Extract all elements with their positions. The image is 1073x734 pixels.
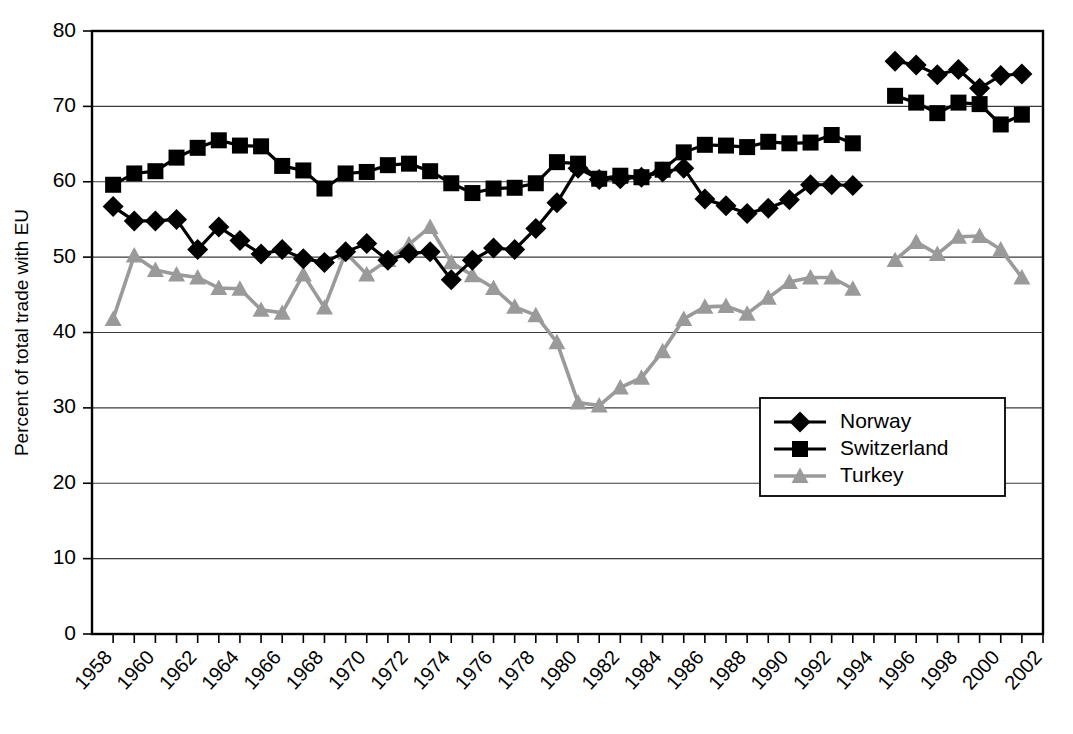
marker-switzerland-1965 [253,138,269,154]
marker-switzerland-1986 [697,137,713,153]
x-tick-label-1962: 1962 [155,646,201,694]
x-tick-label-1994: 1994 [831,646,877,694]
y-tick-label-60: 60 [53,168,76,191]
y-tick-label-30: 30 [53,394,76,417]
legend-label-turkey: Turkey [840,463,904,486]
series-turkey [105,218,1031,412]
x-tick-label-1960: 1960 [112,646,158,694]
chart-container: 01020304050607080 1958196019621964196619… [0,0,1073,734]
marker-norway-1958 [103,196,124,217]
marker-switzerland-1996 [908,95,924,111]
marker-switzerland-1982 [612,168,628,184]
marker-turkey-1959 [126,247,143,262]
legend-swatch-marker-switzerland [792,441,808,457]
marker-switzerland-1990 [781,135,797,151]
marker-turkey-2000 [992,241,1009,256]
x-tick-label-1984: 1984 [619,646,665,694]
x-tick-label-1970: 1970 [324,646,370,694]
marker-switzerland-1997 [929,105,945,121]
marker-turkey-1985 [675,310,692,325]
y-tick-label-50: 50 [53,244,76,267]
marker-switzerland-1984 [655,162,671,178]
marker-switzerland-1992 [824,127,840,143]
marker-norway-1993 [842,175,863,196]
x-tick-label-1958: 1958 [70,646,116,694]
marker-switzerland-1977 [507,180,523,196]
marker-turkey-1974 [443,254,460,269]
y-tick-label-40: 40 [53,319,76,342]
marker-switzerland-1999 [972,96,988,112]
x-tick-label-2000: 2000 [958,646,1004,694]
y-axis-title-text: Percent of total trade with EU [11,209,32,456]
x-tick-label-1980: 1980 [535,646,581,694]
marker-switzerland-2000 [993,116,1009,132]
marker-norway-2001 [1011,63,1032,84]
marker-switzerland-1964 [232,138,248,154]
marker-switzerland-1970 [359,164,375,180]
marker-norway-1968 [314,252,335,273]
marker-switzerland-1998 [950,95,966,111]
marker-switzerland-1988 [739,139,755,155]
marker-turkey-1993 [844,280,861,295]
y-tick-label-10: 10 [53,545,76,568]
marker-switzerland-1971 [380,157,396,173]
marker-norway-1965 [251,244,272,265]
marker-switzerland-1978 [528,175,544,191]
marker-turkey-1958 [105,310,122,325]
marker-norway-1964 [229,230,250,251]
marker-switzerland-1973 [422,163,438,179]
y-axis-title: Percent of total trade with EU [11,209,32,456]
marker-switzerland-1959 [126,165,142,181]
marker-switzerland-1976 [486,181,502,197]
marker-turkey-1973 [422,218,439,233]
marker-switzerland-1967 [295,162,311,178]
series-norway [103,51,1033,291]
marker-switzerland-1989 [760,134,776,150]
marker-norway-1960 [145,210,166,231]
x-tick-label-1976: 1976 [450,646,496,694]
marker-norway-1992 [821,174,842,195]
marker-switzerland-1993 [845,135,861,151]
y-tick-label-80: 80 [53,18,76,41]
marker-switzerland-1991 [803,135,819,151]
y-axis-ticks: 01020304050607080 [53,18,92,644]
marker-switzerland-1974 [443,175,459,191]
marker-norway-1967 [293,248,314,269]
marker-switzerland-1961 [169,150,185,166]
marker-norway-1995 [885,51,906,72]
x-tick-label-1982: 1982 [577,646,623,694]
marker-switzerland-1981 [591,171,607,187]
x-tick-label-1966: 1966 [239,646,285,694]
marker-norway-1961 [166,209,187,230]
marker-norway-1986 [694,189,715,210]
x-tick-label-1986: 1986 [662,646,708,694]
marker-switzerland-1983 [633,169,649,185]
data-series [103,51,1033,413]
marker-switzerland-1985 [676,144,692,160]
legend-label-switzerland: Switzerland [840,436,949,459]
legend-label-norway: Norway [840,409,912,432]
marker-switzerland-1966 [274,158,290,174]
marker-norway-1989 [758,198,779,219]
marker-norway-1997 [927,64,948,85]
marker-turkey-1996 [908,234,925,249]
marker-norway-2000 [990,65,1011,86]
marker-norway-1985 [673,158,694,179]
x-tick-label-1998: 1998 [915,646,961,694]
x-tick-label-1968: 1968 [281,646,327,694]
marker-switzerland-1962 [190,140,206,156]
marker-switzerland-1987 [718,138,734,154]
marker-norway-1976 [483,238,504,259]
marker-switzerland-1968 [316,181,332,197]
marker-switzerland-2001 [1014,107,1030,123]
y-tick-label-0: 0 [64,621,76,644]
marker-norway-1990 [779,189,800,210]
x-tick-label-1990: 1990 [746,646,792,694]
marker-norway-1987 [716,195,737,216]
marker-norway-1991 [800,174,821,195]
marker-switzerland-1958 [105,177,121,193]
marker-switzerland-1979 [549,154,565,170]
x-tick-label-1972: 1972 [366,646,412,694]
marker-norway-1988 [737,203,758,224]
marker-norway-1972 [399,243,420,264]
